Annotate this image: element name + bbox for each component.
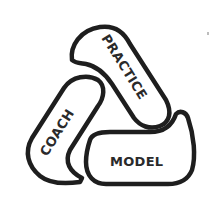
coach-practice-model-logo: PRACTICE COACH MODEL — [0, 0, 216, 212]
model-label: MODEL — [110, 154, 163, 169]
artifact-dot — [207, 32, 209, 35]
